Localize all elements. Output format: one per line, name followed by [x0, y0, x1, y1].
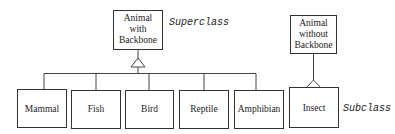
generalization-arrow-icon — [131, 58, 145, 67]
node-label-line: Backbone — [295, 40, 333, 50]
superclass-annotation: Superclass — [169, 17, 229, 28]
node-label: Insect — [303, 103, 326, 113]
node-label-line: with — [130, 24, 147, 34]
node-label: Fish — [88, 104, 105, 114]
inheritance-diagram: Animal with Backbone Superclass Mammal F… — [0, 0, 395, 134]
node-label-line: Animal — [299, 18, 328, 28]
inheritance-connector-vertebrate — [44, 50, 256, 90]
node-label-line: Backbone — [119, 35, 157, 45]
node-bird: Bird — [126, 91, 174, 129]
node-reptile: Reptile — [180, 91, 229, 129]
node-label-line: Animal — [124, 13, 153, 23]
node-insect: Insect — [290, 88, 339, 128]
node-label: Amphibian — [238, 104, 281, 114]
inheritance-connector-invertebrate — [306, 54, 321, 88]
node-amphibian: Amphibian — [235, 91, 284, 129]
node-label: Mammal — [25, 104, 60, 114]
node-mammal: Mammal — [18, 90, 67, 128]
node-label: Bird — [141, 104, 158, 114]
node-animal-with-backbone: Animal with Backbone — [114, 11, 163, 50]
subclass-annotation: Subclass — [343, 103, 391, 114]
generalization-arrow-icon — [306, 80, 321, 88]
node-label-line: without — [299, 29, 328, 39]
node-animal-without-backbone: Animal without Backbone — [291, 16, 337, 54]
node-fish: Fish — [72, 91, 121, 129]
node-label: Reptile — [190, 104, 217, 114]
